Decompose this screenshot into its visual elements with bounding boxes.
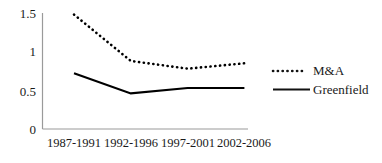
x-tick-label-4: 2002-2006 bbox=[214, 137, 274, 150]
x-tick-label-1: 1987-1991 bbox=[44, 137, 104, 150]
y-tick-label-2: 1 bbox=[6, 45, 36, 58]
line-chart: 1.5 1 0.5 0 1987-1991 1992-1996 1997-200… bbox=[0, 0, 382, 163]
series-line-greenfield bbox=[74, 73, 244, 93]
y-tick-label-3: 0.5 bbox=[6, 85, 36, 98]
x-tick-label-3: 1997-2001 bbox=[158, 137, 218, 150]
y-tick-label-4: 0 bbox=[6, 123, 36, 136]
legend-label-ma: M&A bbox=[313, 64, 344, 78]
x-tick-label-2: 1992-1996 bbox=[101, 137, 161, 150]
y-tick-label-1: 1.5 bbox=[6, 7, 36, 20]
series-line-ma bbox=[74, 15, 244, 69]
legend-label-greenfield: Greenfield bbox=[313, 83, 369, 97]
